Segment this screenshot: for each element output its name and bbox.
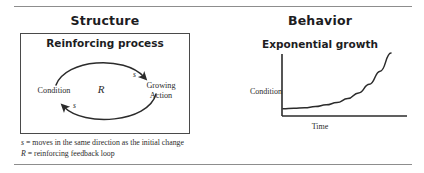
behavior-panel-title: Behavior bbox=[235, 13, 405, 28]
figure-container: Structure Reinforcing process Condition … bbox=[0, 0, 424, 173]
polarity-label-top-s: s bbox=[133, 70, 136, 79]
exponential-growth-caption: Exponential growth bbox=[235, 38, 405, 50]
legend-separator-r: = bbox=[26, 149, 34, 158]
structure-panel-title: Structure bbox=[20, 13, 190, 28]
legend-text-s: moves in the same direction as the initi… bbox=[32, 138, 184, 147]
exponential-curve bbox=[283, 53, 391, 109]
x-axis-label-time: Time bbox=[300, 122, 340, 131]
top-divider-rule bbox=[14, 6, 412, 7]
legend-row-s: s = moves in the same direction as the i… bbox=[21, 137, 184, 148]
legend-text-r: reinforcing feedback loop bbox=[34, 149, 115, 158]
legend: s = moves in the same direction as the i… bbox=[21, 137, 184, 159]
polarity-label-bottom-s: s bbox=[73, 101, 76, 110]
legend-row-r: R = reinforcing feedback loop bbox=[21, 148, 184, 159]
node-growing-action: Growing Action bbox=[136, 81, 186, 100]
loop-identifier-r: R bbox=[93, 83, 109, 95]
node-growing-action-line-2: Action bbox=[136, 91, 186, 101]
node-growing-action-line-1: Growing bbox=[136, 81, 186, 91]
y-axis-label-condition: Condition bbox=[236, 87, 282, 96]
bottom-divider-rule bbox=[14, 164, 412, 165]
arc-condition-to-action bbox=[56, 63, 144, 85]
node-condition: Condition bbox=[26, 86, 82, 96]
